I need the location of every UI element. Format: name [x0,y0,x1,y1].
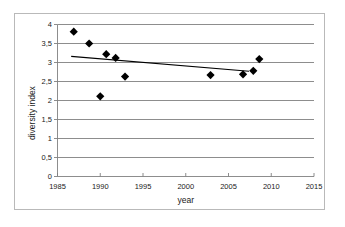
x-axis-tick-marks [58,173,315,177]
y-axis-tick-label: 1,5 [42,116,52,124]
y-axis-tick-label: 4 [48,21,52,29]
x-axis-tick-label: 2015 [297,183,331,191]
y-axis-title: diversity index [27,86,37,140]
x-axis-tick-label: 1995 [126,183,160,191]
y-axis-tick-label: 2,5 [42,78,52,86]
y-axis-tick-label: 3 [48,59,52,67]
y-axis-tick-label: 2 [48,97,52,105]
x-axis-title: year [146,195,226,205]
y-axis-tick-label: 0,5 [42,154,52,162]
diversity-index-scatter-chart [0,0,345,227]
y-axis-tick-label: 0 [48,173,52,181]
x-axis-tick-label: 2010 [254,183,288,191]
x-axis-tick-label: 2000 [169,183,203,191]
trendline [71,56,249,71]
x-axis-tick-label: 2005 [212,183,246,191]
horizontal-gridlines [58,25,315,158]
x-axis-tick-label: 1990 [83,183,117,191]
y-axis-tick-label: 3,5 [42,40,52,48]
x-axis-tick-label: 1985 [41,183,75,191]
y-axis-tick-label: 1 [48,135,52,143]
y-axis-tick-marks [54,25,58,177]
